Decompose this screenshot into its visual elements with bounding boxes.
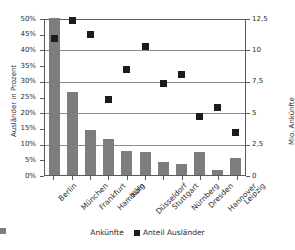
bar-slot — [209, 19, 227, 175]
bar-slot — [227, 19, 245, 175]
legend-swatch-marker-icon — [134, 230, 140, 236]
y-axis-right-tick — [246, 82, 250, 83]
y-axis-left-tick-label: 0% — [0, 173, 36, 180]
bar-slot — [154, 19, 172, 175]
bar-slot — [172, 19, 190, 175]
bar-series-ankuenfte — [45, 19, 245, 175]
y-axis-left-tick-label: 50% — [0, 16, 36, 23]
bar — [140, 152, 151, 175]
y-axis-right-tick-label: 2,5 — [252, 141, 263, 148]
legend-item: Ankünfte — [90, 228, 124, 237]
bar-slot — [81, 19, 99, 175]
y-axis-right-tick — [246, 145, 250, 146]
y-axis-right-tick — [246, 176, 250, 177]
y-axis-right-title: Mio. Ankünfte — [288, 97, 295, 145]
bar — [49, 18, 60, 175]
legend-item: Anteil Ausländer — [134, 228, 205, 237]
x-axis-tick-label: Köln — [129, 182, 146, 199]
y-axis-left-tick-label: 20% — [0, 110, 36, 117]
legend-swatch-bar-icon — [0, 228, 6, 234]
bar-slot — [63, 19, 81, 175]
y-axis-right-tick — [246, 50, 250, 51]
y-axis-right-tick-label: 7,5 — [252, 78, 263, 85]
bar-slot — [136, 19, 154, 175]
chart-legend: AnkünfteAnteil Ausländer — [0, 228, 295, 237]
y-axis-left-tick-label: 5% — [0, 157, 36, 164]
bar — [176, 164, 187, 175]
bar — [158, 162, 169, 175]
y-axis-right-tick — [246, 113, 250, 114]
bar — [67, 92, 78, 175]
bar-slot — [100, 19, 118, 175]
bar — [230, 158, 241, 175]
y-axis-left-tick — [40, 176, 44, 177]
bar-slot — [191, 19, 209, 175]
y-axis-left-tick-label: 40% — [0, 47, 36, 54]
y-axis-right-tick — [246, 19, 250, 20]
y-axis-right-tick-label: 12,5 — [252, 16, 268, 23]
y-axis-right-tick-label: 5 — [252, 110, 256, 117]
x-axis-labels: BerlinMünchenFrankfurtHamburgKölnDüsseld… — [44, 178, 246, 228]
bar — [194, 152, 205, 175]
bar — [103, 139, 114, 175]
y-axis-left-tick-label: 30% — [0, 78, 36, 85]
x-axis-tick-label: Berlin — [58, 182, 79, 203]
legend-label: Ankünfte — [90, 228, 124, 237]
chart-container: Ausländer in Prozent Mio. Ankünfte 0%5%1… — [0, 0, 295, 250]
legend-label: Anteil Ausländer — [143, 228, 205, 237]
y-axis-left-tick-label: 35% — [0, 63, 36, 70]
y-axis-left-tick-label: 10% — [0, 141, 36, 148]
y-axis-left-tick-label: 45% — [0, 31, 36, 38]
bar-slot — [118, 19, 136, 175]
bar — [121, 151, 132, 175]
bar — [85, 130, 96, 175]
y-axis-left-tick-label: 25% — [0, 94, 36, 101]
bar-slot — [45, 19, 63, 175]
plot-area — [44, 19, 246, 176]
y-axis-right-tick-label: 0 — [252, 173, 256, 180]
bar — [212, 170, 223, 175]
y-axis-left-tick-label: 15% — [0, 125, 36, 132]
y-axis-right-tick-label: 10 — [252, 47, 261, 54]
